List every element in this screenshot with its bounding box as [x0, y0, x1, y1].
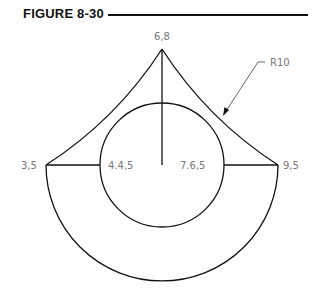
label-apex: 6,8: [154, 31, 170, 42]
label-left: 3,5: [21, 160, 37, 171]
label-inner-left: 4.4,5: [108, 160, 133, 171]
left-r10-arc: [46, 49, 162, 165]
label-right: 9,5: [283, 160, 299, 171]
label-radius: R10: [270, 57, 290, 68]
technical-drawing: 6,8 3,5 9,5 4.4,5 7.6,5 R10: [0, 0, 318, 300]
label-inner-right: 7.6,5: [180, 160, 205, 171]
outer-arc: [46, 165, 278, 281]
right-r10-arc: [162, 49, 278, 165]
r10-leader: [226, 62, 265, 111]
